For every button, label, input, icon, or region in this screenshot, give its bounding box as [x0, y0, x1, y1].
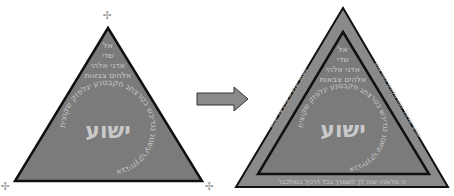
left-line-2: שדי [102, 51, 114, 60]
right-line-1: אל [338, 45, 348, 54]
right-triangle-group: כי מלאכיו יצוה לך לשמרך בכל דרכיך כמולכב… [236, 8, 448, 187]
right-border-bottom-text: כי מלאכיו יצוה לך לשמרך בכל דרכיך כמולכב… [278, 178, 406, 186]
left-top-mark-icon: ✢ [102, 9, 111, 22]
left-center-name: ישוע [85, 118, 130, 143]
left-line-1: אל [103, 41, 113, 50]
right-line-2: שדי [337, 55, 349, 64]
diagram-canvas: אל שדי אדני אלהי אלהים צבאות אבגיתץקרעשט… [0, 0, 454, 196]
right-line-4: אלהים צבאות [320, 75, 367, 84]
right-arrow-icon [197, 87, 248, 111]
left-triangle-group: אל שדי אדני אלהי אלהים צבאות אבגיתץקרעשט… [0, 9, 213, 193]
right-center-name: ישוע [320, 117, 365, 142]
left-line-3: אדני אלהי [91, 61, 125, 70]
right-line-3: אדני אלהי [326, 65, 360, 74]
left-bottom-left-mark-icon: ✢ [0, 180, 9, 193]
left-bottom-right-mark-icon: ✢ [204, 180, 213, 193]
